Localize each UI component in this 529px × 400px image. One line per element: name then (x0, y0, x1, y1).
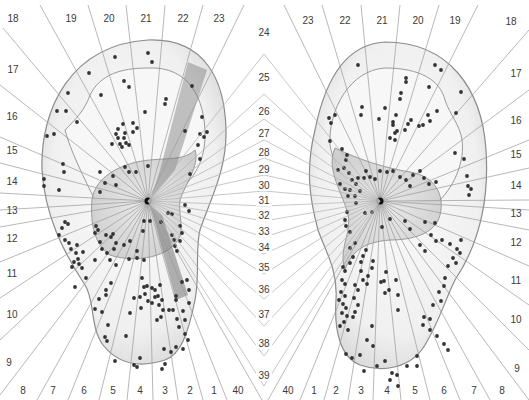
acupoint-dot (96, 228, 100, 232)
acupoint-dot (103, 181, 107, 185)
acupoint-dot (183, 129, 187, 133)
acupoint-dot (158, 283, 162, 287)
acupoint-dot (142, 219, 146, 223)
acupoint-dot (174, 345, 178, 349)
acupoint-dot (342, 320, 346, 324)
acupoint-dot (340, 278, 344, 282)
acupoint-dot (467, 193, 471, 197)
acupoint-dot (343, 294, 347, 298)
acupoint-dot (378, 169, 382, 173)
acupoint-dot (181, 347, 185, 351)
acupoint-dot (163, 102, 167, 106)
acupoint-dot (348, 261, 352, 265)
acupoint-dot (434, 239, 438, 243)
right-zone-label: 2 (333, 385, 339, 396)
acupoint-dot (185, 278, 189, 282)
acupoint-dot (70, 265, 74, 269)
acupoint-dot (180, 280, 184, 284)
left-zone-label: 7 (50, 385, 56, 396)
acupoint-dot (57, 188, 61, 192)
acupoint-dot (72, 260, 76, 264)
acupoint-dot (103, 335, 107, 339)
acupoint-dot (439, 299, 443, 303)
acupoint-dot (98, 240, 102, 244)
acupoint-dot (368, 175, 372, 179)
acupoint-dot (408, 227, 412, 231)
right-zone-label: 9 (514, 363, 520, 374)
acupoint-dot (375, 364, 379, 368)
acupoint-dot (186, 338, 190, 342)
acupoint-dot (99, 93, 103, 97)
left-zone-label: 3 (162, 385, 168, 396)
acupoint-dot (146, 51, 150, 55)
acupoint-dot (417, 124, 421, 128)
acupoint-dot (442, 342, 446, 346)
acupoint-dot (187, 288, 191, 292)
acupoint-dot (200, 115, 204, 119)
acupoint-dot (127, 85, 131, 89)
left-zone-label: 12 (6, 233, 18, 244)
acupoint-dot (105, 251, 109, 255)
acupoint-dot (73, 285, 77, 289)
acupoint-dot (174, 294, 178, 298)
acupoint-dot (350, 356, 354, 360)
acupoint-dot (341, 265, 345, 269)
acupoint-dot (148, 219, 152, 223)
right-zone-label: 3 (358, 385, 364, 396)
acupoint-dot (183, 203, 187, 207)
acupoint-dot (105, 339, 109, 343)
right-zone-label: 21 (376, 15, 388, 26)
right-zone-label: 23 (302, 15, 314, 26)
acupoint-dot (77, 262, 81, 266)
right-zone-label: 11 (511, 275, 522, 286)
acupoint-dot (66, 222, 70, 226)
left-zone-label: 13 (6, 205, 18, 216)
acupoint-dot (123, 165, 127, 169)
acupoint-dot (45, 134, 49, 138)
middle-zone-label: 33 (258, 226, 270, 237)
acupoint-dot (114, 132, 118, 136)
acupoint-dot (437, 290, 441, 294)
acupoint-dot (446, 264, 450, 268)
middle-zone-label: 31 (258, 195, 270, 206)
acupoint-dot (362, 369, 366, 373)
middle-zone-label: 32 (258, 210, 270, 221)
acupoint-dot (143, 292, 147, 296)
acupoint-dot (359, 113, 363, 117)
acupoint-dot (114, 263, 118, 267)
acupoint-dot (74, 251, 78, 255)
acupoint-dot (93, 231, 97, 235)
acupoint-dot (458, 251, 462, 255)
acupoint-dot (61, 162, 65, 166)
acupoint-dot (174, 298, 178, 302)
acupoint-dot (382, 279, 386, 283)
middle-zone-label: 25 (258, 72, 270, 83)
acupoint-dot (122, 136, 126, 140)
acupoint-dot (134, 170, 138, 174)
acupoint-dot (343, 218, 347, 222)
acupoint-dot (161, 308, 165, 312)
acupoint-dot (87, 71, 91, 75)
middle-zone-labels: 24252627282930313233343536373839 (256, 26, 272, 381)
acupoint-dot (123, 131, 127, 135)
acupoint-dot (183, 318, 187, 322)
acupoint-dot (55, 109, 59, 113)
acupoint-dot (181, 309, 185, 313)
acupoint-dot (403, 128, 407, 132)
acupoint-dot (135, 256, 139, 260)
left-zone-label: 8 (20, 385, 26, 396)
acupoint-dot (404, 80, 408, 84)
acupoint-dot (422, 176, 426, 180)
acupoint-dot (358, 353, 362, 357)
acupoint-dot (42, 184, 46, 188)
acupoint-dot (351, 255, 355, 259)
acupoint-dot (344, 352, 348, 356)
middle-zone-label: 27 (258, 128, 270, 139)
acupoint-dot (98, 170, 102, 174)
acupoint-dot (113, 55, 117, 59)
acupoint-dot (52, 132, 56, 136)
acupoint-dot (84, 276, 88, 280)
acupoint-dot (351, 315, 355, 319)
acupoint-dot (428, 317, 432, 321)
acupoint-dot (404, 178, 408, 182)
